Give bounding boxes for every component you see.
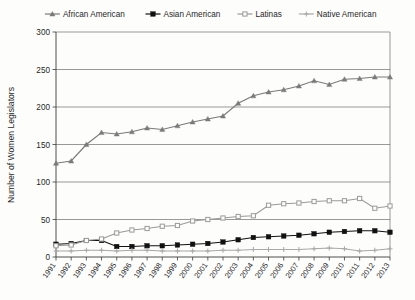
data-point-marker xyxy=(266,234,271,239)
data-point-marker xyxy=(190,242,195,247)
y-tick-label: 200 xyxy=(36,103,50,112)
legend-item-label-2[interactable]: Latinas xyxy=(255,10,281,19)
data-point-marker xyxy=(281,247,286,252)
data-point-marker xyxy=(373,228,378,233)
data-point-marker xyxy=(251,247,256,252)
y-tick-label: 100 xyxy=(36,178,50,187)
data-point-marker xyxy=(236,237,241,242)
x-tick-label: 2001 xyxy=(192,261,209,280)
x-tick-label: 1991 xyxy=(41,261,58,280)
y-tick-label: 300 xyxy=(36,28,50,37)
data-point-marker xyxy=(251,214,255,218)
x-tick-label: 1993 xyxy=(71,261,88,280)
data-point-marker xyxy=(175,243,180,248)
x-tick-label: 1997 xyxy=(132,261,149,280)
chart-figure: African AmericanAsian AmericanLatinasNat… xyxy=(0,0,415,300)
data-point-marker xyxy=(69,249,74,254)
data-point-marker xyxy=(69,243,73,247)
legend-item-label-1[interactable]: Asian American xyxy=(164,10,221,19)
series-line xyxy=(56,77,390,163)
data-point-marker xyxy=(205,249,210,254)
x-tick-label: 2009 xyxy=(314,261,331,280)
data-point-marker xyxy=(342,199,346,203)
data-point-marker xyxy=(175,249,180,254)
x-tick-label: 1996 xyxy=(116,261,133,280)
data-point-marker xyxy=(114,244,119,249)
data-point-marker xyxy=(54,244,58,248)
x-tick-label: 2012 xyxy=(359,261,376,280)
data-point-marker xyxy=(358,196,362,200)
data-point-marker xyxy=(357,249,362,254)
x-axis-ticks: 1991199219931994199519961997199819992000… xyxy=(41,257,392,280)
data-point-marker xyxy=(84,238,88,242)
data-point-marker xyxy=(206,241,211,246)
x-tick-label: 2003 xyxy=(223,261,240,280)
x-tick-label: 1998 xyxy=(147,261,164,280)
series-line xyxy=(56,199,390,246)
x-tick-label: 2006 xyxy=(268,261,285,280)
data-point-marker xyxy=(388,204,392,208)
data-point-marker xyxy=(388,246,393,251)
x-tick-label: 1999 xyxy=(162,261,179,280)
data-point-marker xyxy=(266,247,271,252)
data-point-marker xyxy=(266,203,270,207)
data-point-marker xyxy=(304,12,309,17)
grid-lines xyxy=(56,32,390,220)
data-series xyxy=(53,74,392,253)
data-point-marker xyxy=(296,247,301,252)
data-point-marker xyxy=(99,248,104,253)
data-point-marker xyxy=(99,237,103,241)
data-point-marker xyxy=(236,248,241,253)
data-point-marker xyxy=(236,214,240,218)
data-point-marker xyxy=(160,249,165,254)
data-point-marker xyxy=(115,231,119,235)
x-tick-label: 2002 xyxy=(208,261,225,280)
legend-item-label-3[interactable]: Native American xyxy=(317,10,377,19)
data-point-marker xyxy=(357,228,362,233)
data-point-marker xyxy=(221,216,225,220)
line-chart: African AmericanAsian AmericanLatinasNat… xyxy=(0,0,415,300)
y-tick-label: 250 xyxy=(36,66,50,75)
data-point-marker xyxy=(312,246,317,251)
data-point-marker xyxy=(130,228,134,232)
chart-legend: African AmericanAsian AmericanLatinasNat… xyxy=(45,10,377,19)
data-point-marker xyxy=(373,206,377,210)
data-point-marker xyxy=(206,217,210,221)
data-point-marker xyxy=(160,224,164,228)
data-point-marker xyxy=(190,249,195,254)
x-tick-label: 2000 xyxy=(177,261,194,280)
data-point-marker xyxy=(312,199,316,203)
x-tick-label: 2013 xyxy=(375,261,392,280)
x-tick-label: 2005 xyxy=(253,261,270,280)
x-tick-label: 2007 xyxy=(283,261,300,280)
y-axis-ticks: 050100150200250300 xyxy=(36,28,56,262)
y-axis-title-label: Number of Women Legislators xyxy=(6,87,16,203)
data-point-marker xyxy=(84,248,89,253)
data-point-marker xyxy=(342,246,347,251)
legend-item-label-0[interactable]: African American xyxy=(63,10,125,19)
data-point-marker xyxy=(221,248,226,253)
data-point-marker xyxy=(388,230,393,235)
y-tick-label: 50 xyxy=(41,216,51,225)
data-point-marker xyxy=(372,248,377,253)
data-point-marker xyxy=(251,235,256,240)
data-point-marker xyxy=(327,246,332,251)
data-point-marker xyxy=(175,223,179,227)
x-tick-label: 1992 xyxy=(56,261,73,280)
x-tick-label: 2011 xyxy=(345,261,362,280)
data-point-marker xyxy=(151,12,156,17)
data-point-marker xyxy=(145,243,150,248)
data-point-marker xyxy=(160,243,165,248)
data-point-marker xyxy=(297,201,301,205)
data-point-marker xyxy=(191,219,195,223)
data-point-marker xyxy=(54,249,59,254)
x-tick-label: 2004 xyxy=(238,261,255,280)
data-point-marker xyxy=(114,249,119,254)
data-point-marker xyxy=(145,248,150,253)
x-tick-label: 2010 xyxy=(329,261,346,280)
data-point-marker xyxy=(327,199,331,203)
data-point-marker xyxy=(297,233,302,238)
data-point-marker xyxy=(145,226,149,230)
data-point-marker xyxy=(281,234,286,239)
data-point-marker xyxy=(282,202,286,206)
